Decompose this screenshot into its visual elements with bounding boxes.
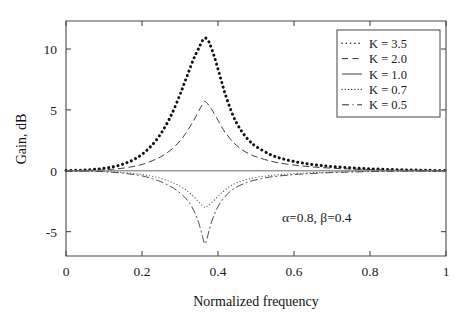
- legend-label: K = 1.0: [369, 68, 407, 82]
- legend-label: K = 3.5: [369, 37, 407, 51]
- x-tick-label: 0.8: [362, 264, 379, 279]
- x-tick-label: 0.6: [286, 264, 303, 279]
- x-tick-label: 0.4: [210, 264, 227, 279]
- figure-container: 00.20.40.60.81 1050-5 Normalized frequen…: [0, 0, 469, 312]
- y-tick-label: 5: [50, 103, 57, 118]
- x-tick-label: 0.2: [134, 264, 151, 279]
- legend-label: K = 2.0: [369, 52, 407, 66]
- y-tick-label: 10: [44, 42, 58, 57]
- x-tick-label: 0: [63, 264, 70, 279]
- parameter-annotation: α=0.8, β=0.4: [282, 210, 352, 225]
- x-axis-title: Normalized frequency: [193, 294, 319, 309]
- y-tick-label: -5: [46, 225, 57, 240]
- legend[interactable]: K = 3.5K = 2.0K = 1.0K = 0.7K = 0.5: [337, 30, 440, 117]
- plot-annotations: α=0.8, β=0.4: [282, 210, 352, 225]
- y-tick-label: 0: [50, 164, 57, 179]
- legend-label: K = 0.5: [369, 98, 407, 112]
- x-tick-label: 1: [443, 264, 450, 279]
- y-axis-title: Gain, dB: [14, 114, 29, 165]
- legend-label: K = 0.7: [369, 83, 407, 97]
- gain-frequency-chart: 00.20.40.60.81 1050-5 Normalized frequen…: [0, 0, 469, 312]
